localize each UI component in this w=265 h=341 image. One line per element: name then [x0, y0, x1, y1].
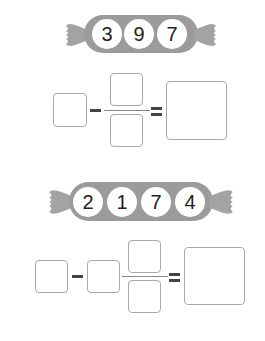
digit: 9 [133, 23, 144, 46]
equals-sign-bottom [169, 279, 180, 282]
answer-box-denominator[interactable] [110, 114, 143, 147]
digit: 7 [166, 23, 177, 46]
digit-ball: 7 [141, 187, 171, 217]
fraction-bar [122, 276, 168, 277]
digit-ball: 9 [124, 19, 154, 49]
answer-box-whole[interactable] [87, 260, 120, 293]
digit: 2 [82, 191, 93, 214]
digit-ball: 4 [175, 187, 205, 217]
answer-box-whole[interactable] [53, 93, 87, 127]
digit: 3 [101, 23, 112, 46]
equals-sign-bottom [151, 113, 162, 116]
digit: 4 [184, 191, 195, 214]
candy-wrapper-right-icon [209, 188, 235, 216]
answer-box-result[interactable] [166, 81, 227, 140]
answer-box-numerator[interactable] [128, 240, 161, 273]
digit: 7 [150, 191, 161, 214]
answer-box-result[interactable] [184, 247, 245, 305]
minus-sign [90, 109, 101, 112]
digit-ball: 2 [73, 187, 103, 217]
answer-box-denominator[interactable] [128, 280, 161, 313]
digit: 1 [116, 191, 127, 214]
digit-ball: 3 [92, 19, 122, 49]
equals-sign-top [151, 107, 162, 110]
digit-ball: 7 [157, 19, 187, 49]
fraction-bar [104, 110, 150, 111]
digit-ball: 1 [107, 187, 137, 217]
minus-sign [72, 275, 83, 278]
equals-sign-top [169, 273, 180, 276]
answer-box-minuend[interactable] [35, 260, 68, 293]
answer-box-numerator[interactable] [110, 73, 143, 106]
candy-wrapper-right-icon [194, 22, 218, 48]
